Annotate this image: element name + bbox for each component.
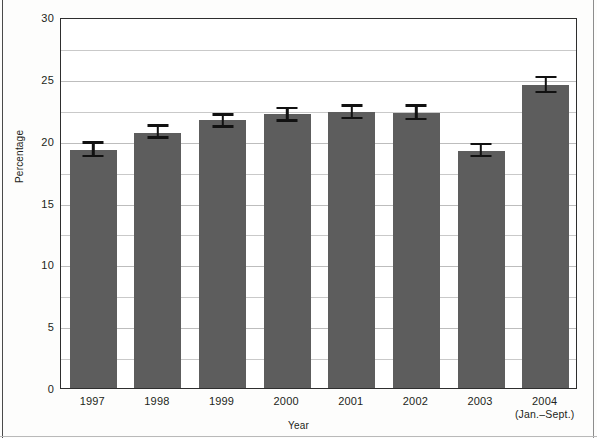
error-bar-cap-upper [147, 124, 168, 127]
bar [458, 151, 505, 389]
error-bar-cap-lower [406, 118, 427, 121]
page-edge-right [593, 0, 594, 438]
error-bar-cap-upper [341, 104, 362, 107]
error-bar-cap-lower [471, 155, 492, 158]
chart-figure: 051015202530 199719981999200020012002200… [0, 0, 597, 438]
error-bar [458, 143, 505, 158]
x-tick-year: 2003 [467, 395, 492, 407]
error-bar-cap-lower [147, 136, 168, 139]
bar [134, 133, 181, 389]
error-bar-cap-upper [277, 107, 298, 110]
error-bar [393, 104, 440, 120]
x-tick-label: 2001 [338, 395, 363, 408]
error-bar-cap-upper [83, 141, 104, 144]
x-tick-year: 1997 [80, 395, 105, 407]
y-tick-label: 30 [8, 12, 54, 24]
error-bar-cap-upper [406, 104, 427, 107]
bar [199, 120, 246, 389]
x-tick-label: 1997 [80, 395, 105, 408]
x-tick-label: 1999 [209, 395, 234, 408]
error-bar [70, 141, 117, 157]
x-tick-year: 2001 [338, 395, 363, 407]
bar [264, 114, 311, 389]
gridline-minor [61, 50, 576, 51]
error-bar [328, 104, 375, 119]
bar [393, 113, 440, 389]
error-bar-cap-lower [535, 91, 556, 94]
y-tick-label: 5 [8, 321, 54, 333]
bar [328, 112, 375, 389]
y-tick-label: 0 [8, 383, 54, 395]
plot-area [60, 18, 577, 389]
x-axis-label: Year [0, 420, 597, 431]
error-bar-cap-upper [535, 76, 556, 79]
error-bar [199, 113, 246, 128]
error-bar [522, 76, 569, 93]
y-axis-ticks: 051015202530 [0, 0, 54, 438]
error-bar-cap-lower [212, 125, 233, 128]
x-tick-year: 1999 [209, 395, 234, 407]
bar [70, 150, 117, 389]
x-tick-year: 1998 [144, 395, 169, 407]
error-bar-cap-upper [212, 113, 233, 116]
error-bar [264, 107, 311, 122]
gridline-major [61, 81, 576, 82]
error-bar-cap-lower [83, 155, 104, 158]
bar [522, 85, 569, 389]
error-bar-cap-lower [277, 119, 298, 122]
y-tick-label: 15 [8, 198, 54, 210]
y-tick-label: 10 [8, 259, 54, 271]
page-edge-bottom [0, 436, 597, 437]
x-tick-label: 2004(Jan.–Sept.) [515, 395, 575, 421]
y-axis-label: Percentage [14, 130, 25, 183]
y-tick-label: 25 [8, 74, 54, 86]
x-tick-label: 2003 [467, 395, 492, 408]
x-tick-year: 2000 [274, 395, 299, 407]
error-bar [134, 124, 181, 139]
error-bar-cap-upper [471, 143, 492, 146]
x-tick-label: 1998 [144, 395, 169, 408]
gridline-minor [61, 112, 576, 113]
error-bar-cap-lower [341, 117, 362, 120]
x-tick-label: 2002 [403, 395, 428, 408]
x-tick-label: 2000 [274, 395, 299, 408]
x-tick-year: 2004 [532, 395, 557, 407]
x-tick-year: 2002 [403, 395, 428, 407]
